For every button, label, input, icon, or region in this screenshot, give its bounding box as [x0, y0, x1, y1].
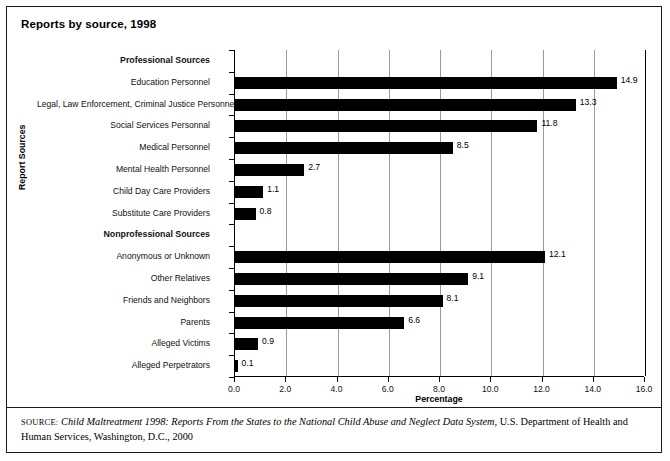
- category-label: Medical Personnel: [37, 137, 210, 159]
- x-axis-tick: [490, 377, 491, 382]
- bar-row: 13.3: [235, 94, 644, 116]
- y-axis-title: Report Sources: [17, 124, 27, 190]
- y-axis-tick: [229, 268, 234, 269]
- bar-row: 6.6: [235, 312, 644, 334]
- bar: [235, 317, 404, 329]
- x-axis-tick: [644, 377, 645, 382]
- category-label: Alleged Perpetrators: [37, 355, 210, 377]
- y-axis-tick: [229, 50, 234, 51]
- bar-row: [235, 50, 644, 72]
- bar-value-label: 6.6: [408, 315, 420, 325]
- category-label: Alleged Victims: [37, 333, 210, 355]
- category-label: Friends and Neighbors: [37, 290, 210, 312]
- y-axis-tick: [229, 159, 234, 160]
- bar-row: [235, 224, 644, 246]
- bar: [235, 208, 256, 220]
- bar-row: 12.1: [235, 246, 644, 268]
- bar-value-label: 2.7: [308, 162, 320, 172]
- bar-row: 0.9: [235, 333, 644, 355]
- y-axis-tick: [229, 290, 234, 291]
- bar-row: 0.1: [235, 355, 644, 377]
- divider: [7, 407, 661, 408]
- y-axis-tick: [229, 224, 234, 225]
- y-axis-tick: [229, 312, 234, 313]
- bar-row: 11.8: [235, 115, 644, 137]
- x-axis-tick-label: 4.0: [331, 384, 343, 394]
- category-label: Nonprofessional Sources: [37, 224, 210, 246]
- category-label: Professional Sources: [37, 50, 210, 72]
- category-label: Child Day Care Providers: [37, 181, 210, 203]
- category-label: Education Personnel: [37, 72, 210, 94]
- bar: [235, 360, 238, 372]
- bar-value-label: 0.1: [242, 358, 254, 368]
- source-title: Child Maltreatment 1998: Reports From th…: [61, 416, 494, 427]
- y-axis-tick: [229, 203, 234, 204]
- x-axis-tick-label: 16.0: [636, 384, 653, 394]
- bar-row: 2.7: [235, 159, 644, 181]
- bar: [235, 186, 263, 198]
- x-axis-title: Percentage: [234, 394, 644, 404]
- bar-row: 1.1: [235, 181, 644, 203]
- bar: [235, 251, 545, 263]
- bar: [235, 142, 453, 154]
- y-axis-tick: [229, 115, 234, 116]
- y-axis-tick: [229, 94, 234, 95]
- bar-value-label: 11.8: [541, 118, 557, 128]
- x-axis-tick: [388, 377, 389, 382]
- bar: [235, 99, 576, 111]
- bar-value-label: 0.9: [262, 336, 274, 346]
- bar-value-label: 8.5: [457, 140, 469, 150]
- bar-value-label: 9.1: [472, 271, 484, 281]
- y-axis-tick: [229, 246, 234, 247]
- bar-row: 0.8: [235, 203, 644, 225]
- bar-rows: 14.913.311.88.52.71.10.812.19.18.16.60.9…: [235, 50, 644, 376]
- bar-value-label: 1.1: [267, 184, 279, 194]
- bar: [235, 164, 304, 176]
- bar: [235, 120, 537, 132]
- bar: [235, 77, 617, 89]
- category-label: Social Services Personnal: [37, 115, 210, 137]
- bar-value-label: 14.9: [621, 75, 638, 85]
- category-label: Parents: [37, 312, 210, 334]
- x-axis-tick: [542, 377, 543, 382]
- y-axis-tick: [229, 333, 234, 334]
- x-axis-tick-label: 10.0: [482, 384, 499, 394]
- bar-value-label: 13.3: [580, 97, 597, 107]
- bar-value-label: 8.1: [447, 293, 459, 303]
- bar-row: 14.9: [235, 72, 644, 94]
- bar-value-label: 0.8: [260, 206, 272, 216]
- gridline: [645, 50, 646, 376]
- x-axis-tick: [439, 377, 440, 382]
- bar-row: 8.5: [235, 137, 644, 159]
- x-axis-tick-label: 12.0: [533, 384, 550, 394]
- bar: [235, 338, 258, 350]
- bar: [235, 273, 468, 285]
- source-prefix: SOURCE:: [21, 418, 58, 427]
- plot-area: 14.913.311.88.52.71.10.812.19.18.16.60.9…: [234, 50, 644, 377]
- figure-frame: Reports by source, 1998 Report Sources 1…: [6, 6, 662, 453]
- x-axis-tick-label: 14.0: [584, 384, 601, 394]
- y-axis-tick: [229, 355, 234, 356]
- x-axis-tick-label: 2.0: [279, 384, 291, 394]
- bar-row: 8.1: [235, 290, 644, 312]
- y-axis-tick: [229, 72, 234, 73]
- bar: [235, 295, 443, 307]
- x-axis-tick: [285, 377, 286, 382]
- source-note: SOURCE: Child Maltreatment 1998: Reports…: [21, 415, 647, 443]
- category-label: Substitute Care Providers: [37, 203, 210, 225]
- x-axis-tick-label: 6.0: [382, 384, 394, 394]
- chart-title: Reports by source, 1998: [21, 18, 156, 30]
- x-axis-tick-label: 8.0: [433, 384, 445, 394]
- category-label: Legal, Law Enforcement, Criminal Justice…: [37, 94, 210, 116]
- category-label: Mental Health Personnel: [37, 159, 210, 181]
- x-axis-tick: [234, 377, 235, 382]
- y-axis-tick: [229, 181, 234, 182]
- x-axis-tick: [337, 377, 338, 382]
- category-label: Other Relatives: [37, 268, 210, 290]
- x-axis-tick-label: 0.0: [228, 384, 240, 394]
- bar-row: 9.1: [235, 268, 644, 290]
- bar-value-label: 12.1: [549, 249, 566, 259]
- y-axis-tick: [229, 137, 234, 138]
- x-axis-tick: [593, 377, 594, 382]
- category-label: Anonymous or Unknown: [37, 246, 210, 268]
